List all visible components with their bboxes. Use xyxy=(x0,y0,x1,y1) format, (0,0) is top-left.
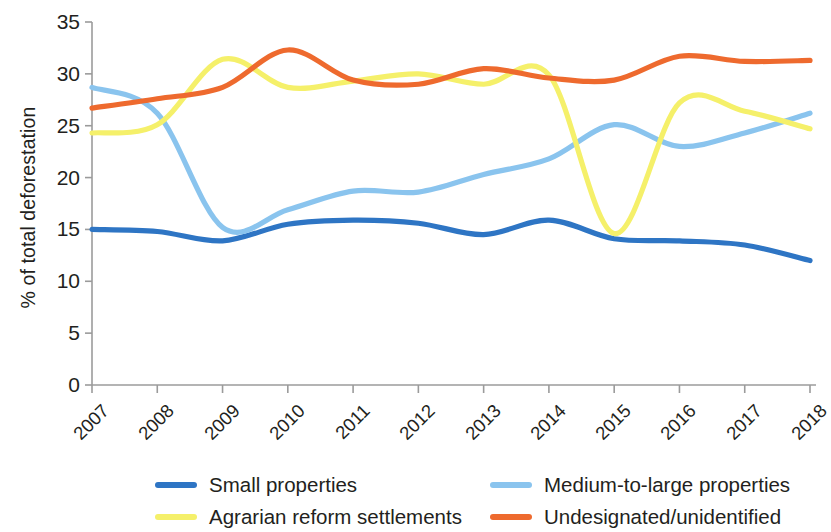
legend-item[interactable]: Small properties xyxy=(155,470,357,500)
chart-legend: Small propertiesMedium-to-large properti… xyxy=(0,466,824,526)
legend-label: Agrarian reform settlements xyxy=(209,505,462,529)
x-tick-label: 2010 xyxy=(247,400,309,462)
series-lines xyxy=(92,50,810,261)
series-line-0 xyxy=(92,220,810,260)
legend-item[interactable]: Agrarian reform settlements xyxy=(155,502,462,532)
x-axis-tick-labels: 2007200820092010201120122013201420152016… xyxy=(0,392,824,462)
x-tick-label: 2007 xyxy=(51,400,113,462)
legend-color-swatch xyxy=(155,514,197,520)
x-tick-label: 2011 xyxy=(312,400,374,462)
x-tick-label: 2017 xyxy=(704,400,766,462)
legend-item[interactable]: Medium-to-large properties xyxy=(490,470,790,500)
plot-area xyxy=(0,0,824,410)
x-tick-label: 2008 xyxy=(117,400,179,462)
legend-label: Medium-to-large properties xyxy=(544,473,790,497)
legend-color-swatch xyxy=(490,514,532,520)
x-tick-label: 2015 xyxy=(574,400,636,462)
x-tick-label: 2014 xyxy=(508,400,570,462)
series-line-1 xyxy=(92,87,810,232)
legend-color-swatch xyxy=(490,482,532,488)
legend-label: Undesignated/unidentified xyxy=(544,505,781,529)
x-tick-label: 2009 xyxy=(182,400,244,462)
x-tick-label: 2018 xyxy=(769,400,831,462)
x-tick-label: 2016 xyxy=(639,400,701,462)
legend-item[interactable]: Undesignated/unidentified xyxy=(490,502,781,532)
x-tick-label: 2012 xyxy=(378,400,440,462)
legend-label: Small properties xyxy=(209,473,357,497)
x-tick-label: 2013 xyxy=(443,400,505,462)
legend-color-swatch xyxy=(155,482,197,488)
